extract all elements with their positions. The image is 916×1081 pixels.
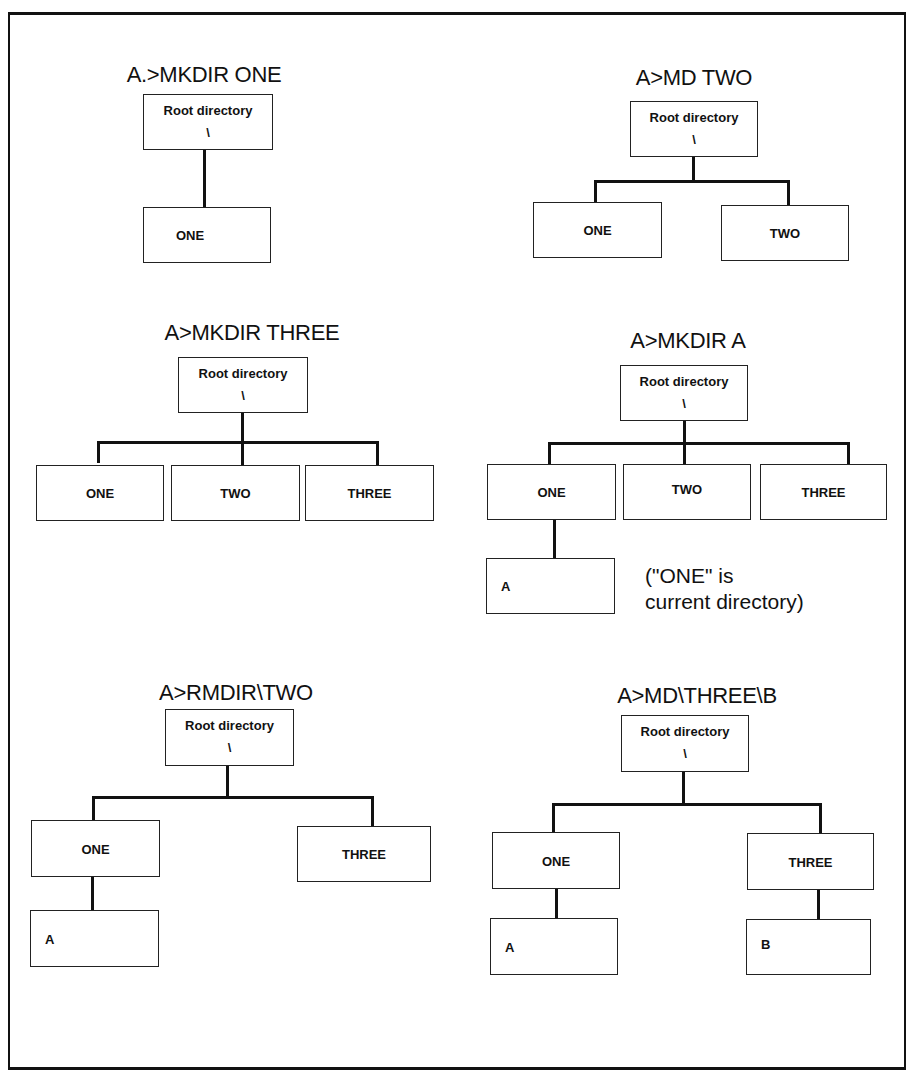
root-directory-box: Root directory \ (620, 365, 748, 421)
directory-node-two: TWO (171, 465, 300, 521)
connector-line (682, 772, 685, 805)
node-label: THREE (748, 854, 873, 869)
connector-line (376, 441, 379, 465)
root-symbol: \ (166, 740, 293, 755)
directory-node-two: TWO (623, 464, 751, 520)
node-label: B (747, 937, 870, 952)
node-label: THREE (298, 847, 430, 862)
root-symbol: \ (144, 125, 272, 140)
directory-node-three: THREE (747, 833, 874, 890)
root-label: Root directory (621, 374, 747, 389)
directory-node-two: TWO (721, 205, 849, 261)
node-label: THREE (761, 485, 886, 500)
directory-node-one: ONE (487, 464, 616, 520)
node-label: TWO (722, 226, 848, 241)
directory-node-a: A (486, 558, 615, 614)
node-label: ONE (493, 853, 619, 868)
root-symbol: \ (179, 388, 307, 403)
root-directory-box: Root directory \ (178, 357, 308, 413)
root-label: Root directory (179, 366, 307, 381)
connector-line (555, 889, 558, 919)
directory-node-three: THREE (760, 464, 887, 520)
directory-node-one: ONE (143, 207, 271, 263)
root-label: Root directory (631, 110, 757, 125)
directory-node-a: A (30, 910, 159, 967)
note-line: current directory) (645, 589, 804, 615)
connector-line (548, 442, 850, 445)
root-label: Root directory (166, 718, 293, 733)
connector-line (847, 442, 850, 464)
connector-line (241, 413, 244, 465)
root-label: Root directory (144, 103, 272, 118)
node-label: ONE (144, 228, 270, 243)
directory-node-one: ONE (36, 465, 164, 521)
command-title: A>RMDIR\TWO (159, 680, 313, 706)
connector-line (91, 877, 94, 911)
connector-line (787, 180, 790, 205)
connector-line (817, 890, 820, 920)
connector-line (97, 441, 379, 444)
connector-line (548, 442, 551, 464)
node-label: ONE (32, 841, 159, 856)
connector-line (594, 180, 790, 183)
connector-line (92, 796, 374, 799)
directory-node-one: ONE (492, 832, 620, 889)
connector-line (97, 441, 100, 463)
command-title: A>MD TWO (636, 65, 752, 91)
connector-line (226, 766, 229, 798)
root-directory-box: Root directory \ (630, 101, 758, 157)
note-line: ("ONE" is (645, 563, 804, 589)
root-directory-box: Root directory \ (143, 94, 273, 150)
directory-node-b: B (746, 919, 871, 975)
command-title: A.>MKDIR ONE (127, 62, 282, 88)
connector-line (92, 796, 95, 820)
node-label: ONE (37, 486, 163, 501)
connector-line (552, 803, 822, 806)
node-label: A (31, 931, 158, 946)
root-label: Root directory (622, 724, 748, 739)
root-symbol: \ (622, 746, 748, 761)
root-directory-box: Root directory \ (621, 715, 749, 772)
connector-line (594, 180, 597, 202)
current-directory-note: ("ONE" is current directory) (645, 563, 804, 615)
node-label: ONE (534, 223, 661, 238)
node-label: A (487, 579, 614, 594)
directory-node-a: A (490, 918, 618, 975)
connector-line (371, 796, 374, 826)
command-title: A>MKDIR A (630, 328, 745, 354)
directory-node-three: THREE (297, 826, 431, 882)
connector-line (692, 157, 695, 181)
root-symbol: \ (621, 396, 747, 411)
node-label: ONE (488, 485, 615, 500)
node-label: TWO (172, 486, 299, 501)
command-title: A>MD\THREE\B (617, 683, 777, 709)
connector-line (819, 803, 822, 834)
connector-line (553, 520, 556, 558)
command-title: A>MKDIR THREE (165, 320, 340, 346)
node-label: TWO (624, 482, 750, 497)
directory-node-one: ONE (533, 202, 662, 258)
directory-node-one: ONE (31, 820, 160, 877)
connector-line (203, 150, 206, 208)
root-symbol: \ (631, 132, 757, 147)
node-label: THREE (306, 486, 433, 501)
root-directory-box: Root directory \ (165, 709, 294, 766)
node-label: A (491, 939, 617, 954)
connector-line (552, 803, 555, 833)
directory-node-three: THREE (305, 465, 434, 521)
